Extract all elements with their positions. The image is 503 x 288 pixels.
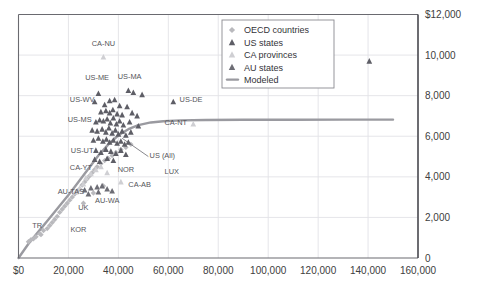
annotation-us-all-: US (All): [150, 151, 175, 160]
data-point-triangle: [366, 58, 372, 64]
data-point-triangle: [103, 108, 109, 114]
data-point-triangle: [119, 112, 125, 118]
legend-label: Modeled: [244, 75, 279, 85]
annotation-tr: TR: [32, 221, 42, 230]
y-tick-label: 8,000: [425, 90, 450, 101]
annotation-us-de: US-DE: [180, 95, 203, 104]
data-point-triangle: [107, 98, 113, 104]
annotation-us-wv: US-WV: [70, 95, 95, 104]
annotation-ca-nu: CA-NU: [92, 39, 115, 48]
annotation-kor: KOR: [70, 225, 86, 234]
data-point-triangle: [89, 127, 95, 133]
series-au-states: [82, 183, 115, 197]
data-point-triangle: [170, 99, 176, 105]
data-point-triangle: [111, 158, 117, 164]
data-point-triangle: [104, 116, 110, 122]
chart-canvas: CA-NUUS-MEUS-MAUS-WVUS-DEUS-MSCA-NTUS-UT…: [0, 0, 503, 288]
x-tick-label: 140,000: [350, 265, 387, 276]
data-point-triangle: [93, 147, 99, 153]
x-tick-label: 80,000: [203, 265, 234, 276]
annotation-ca-nt: CA-NT: [164, 118, 187, 127]
data-point-triangle: [97, 159, 103, 165]
scatter-chart: CA-NUUS-MEUS-MAUS-WVUS-DEUS-MSCA-NTUS-UT…: [0, 0, 503, 288]
data-point-triangle: [126, 87, 132, 93]
y-tick-label: $12,000: [425, 9, 462, 20]
data-point-triangle: [124, 104, 130, 110]
x-tick-label: $0: [13, 265, 25, 276]
data-point-triangle: [134, 113, 140, 119]
data-point-triangle: [96, 91, 102, 97]
y-tick-label: 6,000: [425, 131, 450, 142]
x-tick-label: 40,000: [103, 265, 134, 276]
x-tick-label: 60,000: [153, 265, 184, 276]
data-point-triangle: [94, 184, 100, 190]
data-point-triangle: [117, 118, 123, 124]
data-point-triangle: [139, 92, 145, 98]
annotation-au-tas: AU-TAS: [58, 187, 85, 196]
data-point-triangle: [112, 97, 118, 103]
data-point-triangle: [118, 179, 124, 185]
annotation-uk: UK: [78, 203, 88, 212]
data-point-triangle: [118, 147, 124, 153]
data-point-triangle: [104, 170, 110, 176]
annotation-nor: NOR: [118, 165, 134, 174]
data-point-triangle: [94, 128, 100, 134]
data-point-triangle: [123, 151, 129, 157]
annotation-lux: LUX: [165, 167, 179, 176]
data-point-triangle: [99, 126, 105, 132]
data-point-triangle: [104, 136, 110, 142]
data-point-triangle: [98, 109, 104, 115]
x-tick-label: 160,000: [400, 265, 437, 276]
y-tick-label: 2,000: [425, 212, 450, 223]
data-point-triangle: [106, 125, 112, 131]
annotation-au-wa: AU-WA: [95, 196, 119, 205]
data-point-triangle: [113, 127, 119, 133]
data-point-triangle: [96, 189, 102, 195]
legend-label: US states: [244, 38, 284, 48]
annotation-us-ut: US-UT: [71, 146, 94, 155]
data-point-triangle: [131, 90, 137, 96]
x-tick-label: 100,000: [250, 265, 287, 276]
legend-label: CA provinces: [244, 50, 298, 60]
x-tick-label: 20,000: [53, 265, 84, 276]
data-point-triangle: [117, 103, 123, 109]
y-tick-label: 4,000: [425, 171, 450, 182]
annotation-us-me: US-ME: [85, 73, 109, 82]
annotation-us-ms: US-MS: [68, 115, 92, 124]
y-tick-label: 0: [425, 253, 431, 264]
annotation-ca-yt: CA-YT: [70, 163, 93, 172]
annotation-ca-ab: CA-AB: [128, 180, 151, 189]
data-point-triangle: [91, 137, 97, 143]
data-point-triangle: [190, 121, 196, 127]
annotation-us-ma: US-MA: [118, 72, 142, 81]
data-point-triangle: [110, 107, 116, 113]
y-tick-label: 10,000: [425, 50, 456, 61]
data-point-triangle: [129, 110, 135, 116]
x-tick-label: 120,000: [300, 265, 337, 276]
data-point-triangle: [102, 102, 108, 108]
legend-label: OECD countries: [244, 25, 310, 35]
legend-label: AU states: [244, 63, 284, 73]
data-point-triangle: [109, 188, 115, 194]
data-point-triangle: [127, 119, 133, 125]
data-point-diamond: [91, 190, 96, 195]
data-point-triangle: [113, 150, 119, 156]
data-point-triangle: [88, 185, 94, 191]
chart-legend: OECD countriesUS statesCA provincesAU st…: [222, 20, 334, 88]
data-point-triangle: [108, 148, 114, 154]
